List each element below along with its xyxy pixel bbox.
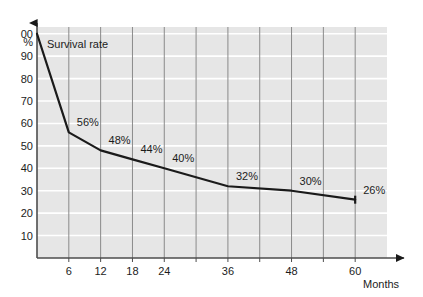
x-axis-title: Months bbox=[363, 278, 400, 290]
y-axis-tick-label: 60 bbox=[21, 117, 33, 129]
x-axis-tick-label: 24 bbox=[158, 265, 170, 277]
data-point-label: 56% bbox=[77, 116, 99, 128]
x-axis-tick-labels: 6121824364860 bbox=[66, 265, 362, 277]
series-label-survival-rate: Survival rate bbox=[47, 38, 108, 50]
y-axis-unit-label: % bbox=[23, 36, 33, 48]
data-point-label: 26% bbox=[363, 184, 385, 196]
y-axis-tick-label: 80 bbox=[21, 73, 33, 85]
y-axis-tick-label: 10 bbox=[21, 230, 33, 242]
y-axis-tick-label: 90 bbox=[21, 50, 33, 62]
y-axis-tick-label: 20 bbox=[21, 207, 33, 219]
y-axis-tick-label: 30 bbox=[21, 185, 33, 197]
plot-area-background bbox=[37, 27, 387, 258]
x-axis-tick-label: 6 bbox=[66, 265, 72, 277]
data-point-label: 40% bbox=[172, 152, 194, 164]
x-axis-tick-label: 48 bbox=[285, 265, 297, 277]
y-axis-tick-label: 70 bbox=[21, 95, 33, 107]
data-point-label: 44% bbox=[140, 143, 162, 155]
x-axis-tick-label: 60 bbox=[349, 265, 361, 277]
data-point-label: 48% bbox=[109, 134, 131, 146]
y-axis-tick-labels: 10203040506070809000 bbox=[21, 28, 33, 242]
chart-canvas: 10203040506070809000 % 6121824364860 Mon… bbox=[0, 0, 423, 297]
data-point-label: 32% bbox=[236, 170, 258, 182]
data-point-label: 30% bbox=[300, 175, 322, 187]
x-axis-tick-label: 18 bbox=[126, 265, 138, 277]
x-axis-tick-label: 36 bbox=[222, 265, 234, 277]
y-axis-tick-label: 50 bbox=[21, 140, 33, 152]
survival-rate-chart: 10203040506070809000 % 6121824364860 Mon… bbox=[0, 0, 423, 297]
y-axis-tick-label: 40 bbox=[21, 162, 33, 174]
x-axis-tick-label: 12 bbox=[95, 265, 107, 277]
